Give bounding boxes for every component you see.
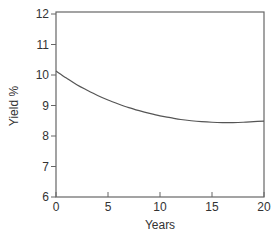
y-tick-label: 8 [42,129,49,143]
x-tick-label: 5 [105,200,112,214]
x-axis-ticks: 05101520 [53,192,271,214]
y-tick-label: 11 [37,38,50,52]
x-tick-label: 20 [257,200,271,214]
y-axis-ticks: 6789101112 [36,7,56,204]
x-axis-label: Years [145,218,175,232]
plot-frame [56,12,264,197]
y-axis-label: Yield % [7,86,21,127]
y-tick-label: 10 [36,68,50,82]
x-tick-label: 10 [153,200,167,214]
plot-border [56,12,264,197]
y-tick-label: 12 [36,7,50,21]
y-tick-label: 7 [42,160,49,174]
yield-curve-line [56,71,264,123]
x-tick-label: 0 [53,200,60,214]
y-tick-label: 9 [42,99,49,113]
yield-chart: 6789101112 05101520 Years Yield % [0,0,275,236]
y-tick-label: 6 [42,190,49,204]
x-tick-label: 15 [205,200,219,214]
